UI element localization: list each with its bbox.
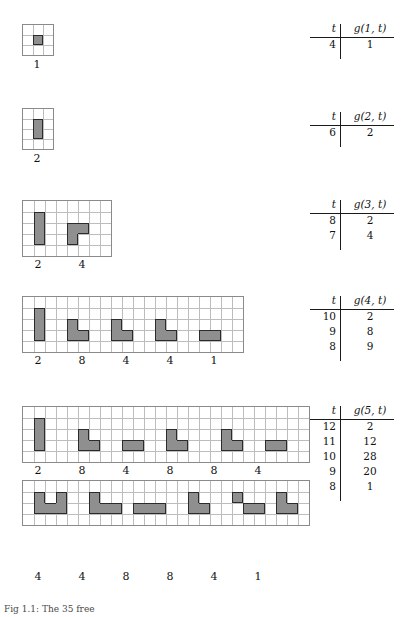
polyomino-outline-edge (122, 450, 133, 451)
piece-count-label: 4 (79, 570, 86, 583)
grid-line-vertical (287, 407, 288, 462)
polyomino-outline-edge (198, 492, 199, 503)
grid-line-vertical (254, 407, 255, 462)
polyomino-outline-edge (199, 330, 200, 341)
polyomino-outline-edge (242, 492, 243, 503)
grid-line-vertical (100, 297, 101, 352)
polyomino-outline-edge (264, 503, 265, 514)
polyomino-outline-edge (221, 450, 232, 451)
table-row: 920 (310, 465, 394, 480)
polyomino-outline-edge (166, 440, 167, 451)
perimeter-table-g1: tg(1, t)41 (310, 22, 394, 53)
polyomino-outline-edge (133, 513, 144, 514)
polyomino-outline-edge (77, 319, 78, 330)
perimeter-table-g4: tg(4, t)1029889 (310, 294, 394, 355)
polyomino-outline-edge (199, 340, 210, 341)
grid-line-vertical (89, 201, 90, 256)
polyomino-outline-edge (44, 319, 45, 330)
grid-line-vertical (155, 407, 156, 462)
cell-g: 9 (346, 340, 394, 352)
piece-count-label: 8 (123, 570, 130, 583)
table-header-g: g(5, t) (346, 404, 394, 416)
polyomino-outline-edge (44, 330, 45, 341)
polyomino-outline-edge (99, 492, 100, 503)
grid-line-vertical (210, 407, 211, 462)
polyomino-outline-edge (89, 513, 100, 514)
polyomino-outline-edge (67, 330, 68, 341)
polyomino-outline-edge (221, 429, 222, 440)
polyomino-outline-edge (165, 503, 166, 514)
grid-line-horizontal (23, 319, 243, 320)
polyomino-outline-edge (286, 440, 287, 451)
piece-count-label: 4 (167, 354, 174, 367)
grid-line-horizontal (23, 418, 309, 419)
grid-line-vertical (122, 297, 123, 352)
polyomino-grid (22, 200, 112, 257)
polyomino-outline-edge (122, 440, 123, 451)
grid-line-horizontal (23, 45, 53, 46)
polyomino-outline-edge (243, 503, 244, 514)
polyomino-outline-edge (100, 503, 111, 504)
grid-line-vertical (265, 407, 266, 462)
grid-line-vertical (133, 407, 134, 462)
polyomino-outline-edge (276, 503, 277, 514)
grid-line-vertical (188, 407, 189, 462)
perimeter-table-g3: tg(3, t)8274 (310, 198, 394, 244)
piece-count-label: 2 (34, 152, 41, 165)
cell-t: 8 (310, 214, 336, 226)
polyomino-outline-edge (34, 492, 35, 503)
polyomino-outline-edge (34, 503, 35, 514)
table-header-g: g(3, t) (346, 198, 394, 210)
grid-line-vertical (298, 407, 299, 462)
polyomino-outline-edge (34, 223, 35, 234)
cell-t: 12 (310, 420, 336, 432)
polyomino-outline-edge (220, 330, 221, 341)
piece-count-label: 1 (34, 58, 41, 71)
cell-t: 8 (310, 480, 336, 492)
table-row: 82 (310, 214, 394, 229)
polyomino-outline-edge (243, 503, 254, 504)
polyomino-outline-edge (221, 440, 222, 451)
grid-line-vertical (276, 407, 277, 462)
polyomino-grid (22, 108, 54, 150)
polyomino-outline-edge (67, 223, 78, 224)
table-row: 62 (310, 126, 394, 141)
polyomino-outline-edge (78, 429, 79, 440)
grid-line-vertical (166, 297, 167, 352)
grid-line-horizontal (23, 514, 309, 515)
grid-line-vertical (122, 407, 123, 462)
grid-line-vertical (43, 25, 44, 55)
grid-line-horizontal (23, 451, 309, 452)
polyomino-outline-edge (176, 330, 177, 341)
table-vertical-rule (340, 406, 341, 501)
perimeter-table-g2: tg(2, t)62 (310, 110, 394, 141)
piece-count-label: 4 (123, 464, 130, 477)
grid-line-vertical (177, 407, 178, 462)
polyomino-outline-edge (243, 513, 254, 514)
polyomino-outline-edge (231, 429, 232, 440)
polyomino-outline-edge (78, 440, 79, 451)
cell-t: 9 (310, 465, 336, 477)
polyomino-outline-edge (56, 492, 57, 503)
piece-count-label: 2 (35, 464, 42, 477)
polyomino-outline-edge (66, 503, 67, 514)
cell-g: 8 (346, 325, 394, 337)
grid-line-horizontal (23, 308, 243, 309)
perimeter-table-g5: tg(5, t)1221112102892081 (310, 404, 394, 495)
polyomino-outline-edge (45, 513, 56, 514)
table-row: 1028 (310, 450, 394, 465)
piece-count-label: 2 (35, 258, 42, 271)
grid-line-vertical (144, 297, 145, 352)
polyomino-outline-edge (111, 319, 112, 330)
cell-g: 28 (346, 450, 394, 462)
table-header-g: g(4, t) (346, 294, 394, 306)
polyomino-outline-edge (88, 223, 89, 234)
cell-g: 1 (346, 480, 394, 492)
table-row: 81 (310, 480, 394, 495)
polyomino-outline-edge (144, 513, 155, 514)
polyomino-figure-n1 (22, 24, 54, 56)
polyomino-outline-edge (232, 492, 233, 503)
polyomino-outline-edge (34, 440, 35, 451)
table-row: 102 (310, 310, 394, 325)
piece-count-label: 4 (255, 464, 262, 477)
